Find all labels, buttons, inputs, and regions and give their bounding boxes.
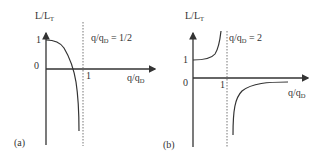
panel-b-condition: q/qD = 2	[229, 33, 262, 46]
panel-a-y-tick-0: 0	[34, 61, 39, 71]
panel-b-y-axis-label: L/LT	[185, 11, 204, 24]
panel-a-x-tick-1: 1	[86, 71, 91, 81]
panel-b-x-axis-label: q/qD	[288, 88, 305, 101]
diagram-canvas	[0, 0, 325, 160]
panel-b-curve-left	[193, 31, 221, 60]
panel-b-y-tick-1: 1	[183, 55, 188, 65]
panel-b-y-tick-0: 0	[183, 78, 188, 88]
panel-a-condition: q/qD = 1/2	[91, 33, 132, 46]
panel-a-curve	[46, 40, 79, 131]
panel-a-y-axis-label: L/LT	[35, 11, 54, 24]
panel-b-x-tick-1: 1	[220, 80, 225, 90]
panel-a-y-tick-1: 1	[36, 35, 41, 45]
panel-b-curve-right	[233, 82, 288, 135]
panel-b-label: (b)	[163, 140, 175, 150]
panel-a-label: (a)	[14, 138, 25, 148]
panel-a-x-axis-label: q/qD	[127, 73, 144, 86]
